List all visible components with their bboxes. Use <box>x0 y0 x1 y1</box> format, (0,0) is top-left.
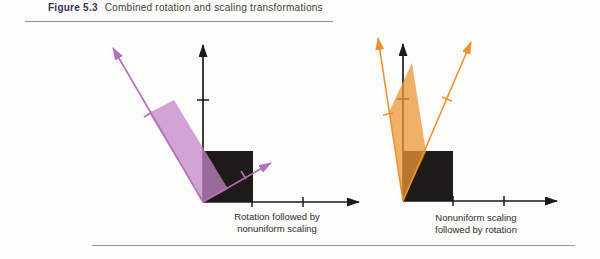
left-basis-y-arrow <box>113 48 203 202</box>
right-caption-line1: Nonuniform scaling <box>396 212 556 224</box>
left-caption-line2: nonuniform scaling <box>197 223 357 235</box>
left-caption-line1: Rotation followed by <box>197 211 357 223</box>
right-diagram-caption: Nonuniform scaling followed by rotation <box>396 212 556 236</box>
footer-rule <box>92 245 575 246</box>
figure-page: Figure 5.3Combined rotation and scaling … <box>0 0 600 259</box>
right-caption-line2: followed by rotation <box>396 224 556 236</box>
left-diagram-caption: Rotation followed by nonuniform scaling <box>197 211 357 235</box>
